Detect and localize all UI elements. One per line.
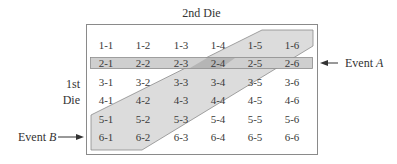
- outcome-cell: 3-6: [277, 76, 307, 88]
- outcome-cell: 1-4: [203, 39, 233, 51]
- outcome-cell: 6-5: [240, 131, 270, 143]
- column-axis-title: 2nd Die: [0, 6, 397, 21]
- outcome-cell: 4-1: [91, 94, 121, 106]
- event-a-label: Event A: [345, 56, 383, 71]
- outcome-cell: 3-1: [91, 76, 121, 88]
- outcome-cell: 4-6: [277, 94, 307, 106]
- outcome-cell: 4-3: [166, 94, 196, 106]
- outcome-cell: 1-3: [166, 39, 196, 51]
- event-a-prefix: Event: [345, 56, 376, 70]
- outcome-cell: 3-4: [203, 76, 233, 88]
- column-axis-title-text: 2nd Die: [182, 6, 220, 20]
- outcome-cell: 4-5: [240, 94, 270, 106]
- outcome-cell: 5-5: [240, 113, 270, 125]
- outcome-cell: 6-6: [277, 131, 307, 143]
- outcome-cell: 2-1: [91, 57, 121, 69]
- event-b-label: Event B: [18, 130, 56, 145]
- row-axis-title-line2: Die: [56, 92, 80, 108]
- outcome-cell: 2-5: [240, 57, 270, 69]
- outcome-cell: 3-2: [128, 76, 158, 88]
- outcome-cell: 3-5: [240, 76, 270, 88]
- outcome-cell: 1-1: [91, 39, 121, 51]
- outcome-cell: 3-3: [166, 76, 196, 88]
- outcome-cell: 6-3: [166, 131, 196, 143]
- event-b-letter: B: [49, 130, 56, 144]
- outcome-cell: 1-2: [128, 39, 158, 51]
- outcome-cell: 5-6: [277, 113, 307, 125]
- outcome-cell: 2-3: [166, 57, 196, 69]
- outcome-cell: 2-2: [128, 57, 158, 69]
- event-b-prefix: Event: [18, 130, 49, 144]
- outcome-cell: 6-4: [203, 131, 233, 143]
- outcome-cell: 2-6: [277, 57, 307, 69]
- outcome-cell: 1-5: [240, 39, 270, 51]
- outcome-cell: 4-4: [203, 94, 233, 106]
- row-axis-title: 1st Die: [56, 76, 80, 108]
- outcome-cell: 5-2: [128, 113, 158, 125]
- outcome-cell: 5-3: [166, 113, 196, 125]
- outcome-cell: 1-6: [277, 39, 307, 51]
- outcome-cell: 5-1: [91, 113, 121, 125]
- outcome-cell: 6-2: [128, 131, 158, 143]
- outcome-cell: 2-4: [203, 57, 233, 69]
- event-a-arrow-icon: [320, 60, 328, 66]
- event-a-letter: A: [376, 56, 383, 70]
- event-b-arrow-icon: [76, 134, 84, 140]
- outcome-cell: 5-4: [203, 113, 233, 125]
- row-axis-title-line1: 1st: [56, 76, 80, 92]
- outcome-cell: 4-2: [128, 94, 158, 106]
- outcome-cell: 6-1: [91, 131, 121, 143]
